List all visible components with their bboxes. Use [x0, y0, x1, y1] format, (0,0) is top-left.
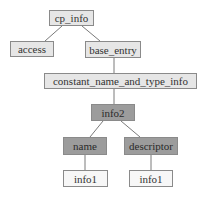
node-name: name	[63, 137, 107, 155]
edge-info2-name	[90, 121, 103, 137]
node-label: descriptor	[129, 140, 173, 152]
node-base_entry: base_entry	[85, 41, 141, 58]
node-label: info1	[139, 173, 162, 185]
node-cp_info: cp_info	[49, 10, 94, 26]
node-access: access	[10, 41, 54, 57]
node-label: constant_name_and_type_info	[53, 75, 188, 87]
node-constant: constant_name_and_type_info	[44, 73, 197, 89]
tree-diagram: cp_infoaccessbase_entryconstant_name_and…	[0, 0, 205, 198]
node-info1_a: info1	[63, 170, 108, 187]
node-label: access	[18, 43, 46, 55]
node-info2: info2	[91, 104, 135, 121]
node-label: name	[73, 140, 97, 152]
node-label: info1	[74, 173, 97, 185]
node-info1_b: info1	[129, 170, 173, 187]
node-label: info2	[101, 107, 124, 119]
edges-layer	[0, 0, 205, 198]
edge-info2-descriptor	[121, 121, 140, 137]
node-descriptor: descriptor	[124, 137, 178, 155]
edge-cp_info-base_entry	[82, 26, 100, 41]
node-label: base_entry	[89, 44, 137, 56]
node-label: cp_info	[55, 12, 89, 24]
edge-cp_info-access	[45, 26, 62, 41]
